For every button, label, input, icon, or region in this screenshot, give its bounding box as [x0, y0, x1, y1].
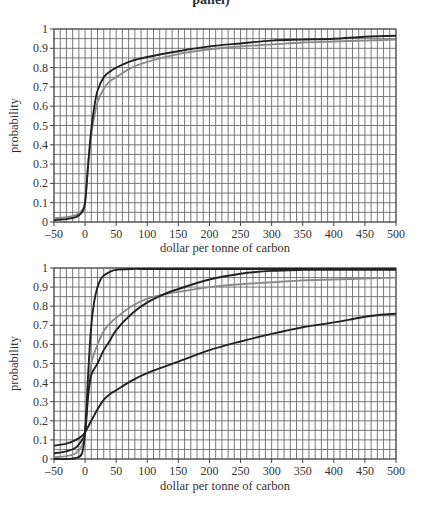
y-tick-label: 0.6	[33, 337, 48, 351]
series-line	[54, 314, 396, 446]
bottom-probability-chart: 00.10.20.30.40.50.60.70.80.91–5005010015…	[7, 261, 405, 493]
x-tick-label: 500	[387, 464, 405, 478]
x-axis-label: dollar per tonne of carbon	[160, 241, 291, 255]
y-tick-label: 0.7	[33, 318, 48, 332]
x-tick-label: –50	[44, 464, 63, 478]
y-tick-label: 0.3	[33, 157, 48, 171]
y-tick-label: 0.4	[33, 376, 48, 390]
y-tick-label: 0.9	[33, 41, 48, 55]
grid	[54, 29, 396, 222]
x-tick-label: 0	[82, 464, 88, 478]
grid	[54, 268, 396, 459]
y-tick-label: 0.6	[33, 99, 48, 113]
x-tick-label: 100	[138, 464, 156, 478]
x-tick-label: 50	[110, 464, 122, 478]
x-tick-label: 50	[110, 227, 122, 241]
x-tick-label: 350	[294, 464, 312, 478]
x-tick-label: 400	[325, 227, 343, 241]
x-tick-label: 250	[232, 464, 250, 478]
y-tick-label: 1	[42, 261, 48, 275]
y-tick-label: 0.8	[33, 61, 48, 75]
x-tick-label: 150	[169, 227, 187, 241]
y-tick-label: 0.2	[33, 176, 48, 190]
y-tick-label: 0.1	[33, 433, 48, 447]
y-tick-label: 0.1	[33, 196, 48, 210]
x-tick-label: 300	[263, 464, 281, 478]
y-tick-label: 0.2	[33, 414, 48, 428]
x-tick-label: 150	[169, 464, 187, 478]
y-tick-label: 0.5	[33, 357, 48, 371]
y-tick-label: 0.8	[33, 299, 48, 313]
x-tick-label: 300	[263, 227, 281, 241]
x-tick-label: 450	[356, 464, 374, 478]
series-line	[54, 270, 396, 453]
x-tick-label: –50	[44, 227, 63, 241]
top-probability-chart: 00.10.20.30.40.50.60.70.80.91–5005010015…	[7, 22, 405, 255]
x-tick-label: 450	[356, 227, 374, 241]
y-axis-label: probability	[7, 335, 21, 391]
series-line	[54, 40, 396, 219]
y-axis-label: probability	[7, 97, 21, 153]
x-tick-label: 250	[232, 227, 250, 241]
x-tick-label: 100	[138, 227, 156, 241]
x-axis-label: dollar per tonne of carbon	[160, 479, 291, 493]
x-tick-label: 350	[294, 227, 312, 241]
y-tick-label: 0.9	[33, 280, 48, 294]
y-tick-label: 0.4	[33, 138, 48, 152]
x-tick-label: 200	[200, 464, 218, 478]
y-tick-label: 0.3	[33, 395, 48, 409]
x-tick-label: 200	[200, 227, 218, 241]
y-tick-label: 0.7	[33, 80, 48, 94]
y-tick-label: 0.5	[33, 119, 48, 133]
y-tick-label: 1	[42, 22, 48, 36]
x-tick-label: 400	[325, 464, 343, 478]
x-tick-label: 0	[82, 227, 88, 241]
x-tick-label: 500	[387, 227, 405, 241]
chart-canvas: 00.10.20.30.40.50.60.70.80.91–5005010015…	[0, 0, 422, 514]
series-line	[54, 36, 396, 220]
